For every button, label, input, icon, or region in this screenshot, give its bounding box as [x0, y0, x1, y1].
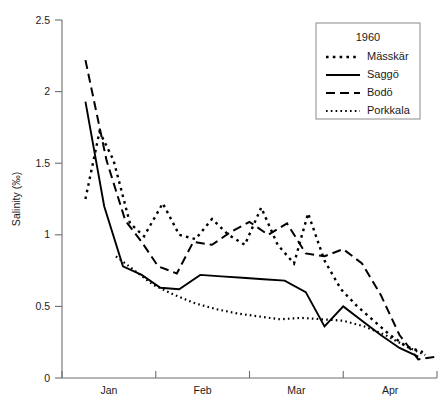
legend: 1960 MässkärSaggöBodöPorkkala	[316, 23, 420, 119]
x-tick-label: Feb	[194, 384, 212, 396]
legend-label-porkkala: Porkkala	[367, 104, 411, 116]
y-axis-title: Salinity (‰)	[10, 172, 22, 226]
y-tick-group: 00.511.522.5	[35, 14, 62, 384]
x-tick-label: Mar	[287, 384, 306, 396]
legend-title: 1960	[356, 31, 380, 43]
legend-label-bod: Bodö	[367, 86, 393, 98]
legend-label-sagg: Saggö	[367, 68, 399, 80]
x-tick-label: Jan	[100, 384, 117, 396]
y-tick-label: 1.5	[35, 157, 50, 169]
series-line-porkkala	[116, 256, 425, 355]
x-axis-group: JanFebMarApr	[62, 371, 437, 396]
chart-canvas: 00.511.522.5 Salinity (‰) JanFebMarApr 1…	[0, 0, 445, 419]
y-axis-group: 00.511.522.5 Salinity (‰)	[10, 14, 62, 384]
y-tick-label: 0.5	[35, 300, 50, 312]
series-line-sagg	[85, 102, 418, 357]
x-tick-group	[62, 371, 437, 378]
salinity-line-chart: 00.511.522.5 Salinity (‰) JanFebMarApr 1…	[0, 0, 445, 419]
y-tick-label: 0	[44, 372, 50, 384]
legend-label-msskr: Mässkär	[367, 50, 409, 62]
y-tick-label: 2.5	[35, 14, 50, 26]
x-tick-label: Apr	[382, 384, 399, 396]
y-tick-label: 1	[44, 228, 50, 240]
x-tick-label-group: JanFebMarApr	[100, 384, 398, 396]
series-line-msskr	[85, 132, 423, 353]
y-tick-label: 2	[44, 85, 50, 97]
